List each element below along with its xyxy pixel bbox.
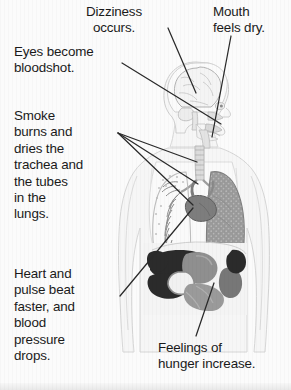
- abdominal-organs: [143, 243, 247, 315]
- caption-mouth-feels-dry: Mouth feels dry.: [213, 4, 287, 37]
- caption-smoke-trachea-lungs: Smoke burns and dries the trachea and th…: [14, 108, 126, 223]
- caption-hunger-increase: Feelings of hunger increase.: [158, 340, 288, 373]
- caption-dizziness: Dizziness occurs.: [56, 4, 172, 37]
- caption-eyes-bloodshot: Eyes become bloodshot.: [14, 44, 154, 77]
- caption-heart-pulse-blood-pressure: Heart and pulse beat faster, and blood p…: [14, 266, 130, 364]
